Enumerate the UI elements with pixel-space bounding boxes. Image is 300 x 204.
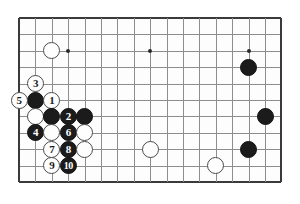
stone-black[interactable] (257, 108, 274, 125)
grid-column-line (134, 18, 135, 182)
stone-black[interactable] (240, 59, 257, 76)
numbered-stone-7[interactable]: 7 (43, 141, 60, 158)
grid-column-line (167, 18, 168, 182)
grid-column-line (265, 18, 266, 182)
numbered-stone-10[interactable]: 10 (60, 157, 77, 174)
numbered-stone-1[interactable]: 1 (43, 92, 60, 109)
grid-column-line (183, 18, 184, 182)
grid-column-line (232, 18, 233, 182)
stone-move-number: 9 (49, 160, 54, 171)
numbered-stone-3[interactable]: 3 (27, 75, 44, 92)
stone-move-number: 10 (64, 160, 73, 170)
go-board: 35124678910 (0, 0, 300, 204)
stone-move-number: 2 (66, 110, 71, 121)
stone-move-number: 5 (17, 94, 22, 105)
star-point (148, 49, 152, 53)
stone-move-number: 1 (49, 94, 54, 105)
grid-column-line (117, 18, 118, 182)
stone-black[interactable] (240, 141, 257, 158)
stone-white[interactable] (142, 141, 159, 158)
numbered-stone-6[interactable]: 6 (60, 124, 77, 141)
stone-white[interactable] (27, 108, 44, 125)
grid-column-line (280, 18, 282, 182)
star-point (66, 49, 70, 53)
numbered-stone-8[interactable]: 8 (60, 141, 77, 158)
stone-move-number: 4 (33, 127, 38, 138)
stone-move-number: 3 (33, 78, 38, 89)
stone-move-number: 8 (66, 143, 71, 154)
stone-black[interactable] (27, 92, 44, 109)
grid-column-line (199, 18, 200, 182)
stone-move-number: 6 (66, 127, 71, 138)
star-point (247, 49, 251, 53)
stone-black[interactable] (76, 108, 93, 125)
stone-move-number: 7 (49, 143, 54, 154)
grid-column-line (101, 18, 102, 182)
numbered-stone-5[interactable]: 5 (11, 92, 28, 109)
numbered-stone-2[interactable]: 2 (60, 108, 77, 125)
stone-white[interactable] (76, 141, 93, 158)
